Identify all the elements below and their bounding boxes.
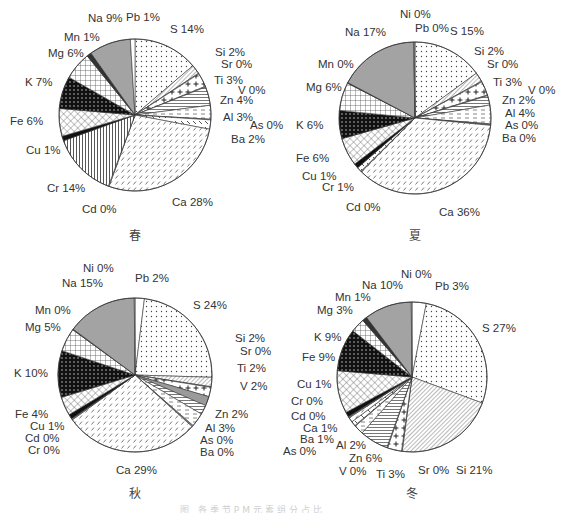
slice-label: Ba 0% xyxy=(200,446,234,458)
slice-label: Cd 0% xyxy=(82,203,117,215)
slice-label: Fe 6% xyxy=(296,152,329,164)
slice-label: Fe 4% xyxy=(15,408,48,420)
season-title: 冬 xyxy=(406,486,418,501)
slice-label: Pb 2% xyxy=(135,272,169,284)
season-title: 夏 xyxy=(409,229,421,243)
slice-label: S 14% xyxy=(170,23,204,35)
slice-label: Mg 3% xyxy=(317,304,353,316)
slice-label: Ti 3% xyxy=(493,76,522,88)
slice-label: S 15% xyxy=(450,25,484,37)
slice-label: Na 17% xyxy=(345,26,386,38)
slice-label: Ba 0% xyxy=(502,132,536,144)
slice-label: Mn 0% xyxy=(35,304,71,316)
slice-label: Mg 6% xyxy=(306,81,342,93)
pie-chart-autumn: Ni 0%Pb 2%Na 15%S 24%Mn 0%Mg 5%Si 2%Sr 0… xyxy=(14,262,271,501)
slice-label: Cu 1% xyxy=(26,144,61,156)
slice-label: Ti 2% xyxy=(237,362,266,374)
slice-label: S 27% xyxy=(482,322,516,334)
slice-label: Mg 5% xyxy=(25,321,61,333)
season-title: 春 xyxy=(129,229,141,243)
slice-label: Na 15% xyxy=(62,277,103,289)
slice-label: Cr 1% xyxy=(322,181,354,193)
slice-label: V 2% xyxy=(240,380,268,392)
slice-label: Ba 2% xyxy=(231,133,265,145)
slice-label: As 0% xyxy=(250,119,283,131)
slice-label: Ca 29% xyxy=(116,464,157,476)
season-title: 秋 xyxy=(129,487,141,501)
slice-label: Mn 0% xyxy=(318,58,354,70)
slice-label: Al 3% xyxy=(205,422,235,434)
slice-label: Cd 0% xyxy=(291,410,326,422)
slice-label: As 0% xyxy=(283,445,316,457)
pie-chart-figure: Pb 1%S 14%Si 2%Sr 0%Ti 3%V 0%Zn 4%Al 3%A… xyxy=(0,0,564,513)
slice-label: Zn 2% xyxy=(502,94,535,106)
slice-label: Zn 4% xyxy=(220,94,253,106)
slice-label: Ba 1% xyxy=(300,433,334,445)
slice-label: Pb 3% xyxy=(435,280,469,292)
slice-label: Cd 0% xyxy=(346,201,381,213)
slice-label: Cu 1% xyxy=(297,378,332,390)
slice-label: Al 4% xyxy=(505,107,535,119)
slice-label: Cr 0% xyxy=(291,395,323,407)
slice-label: Fe 6% xyxy=(10,115,43,127)
slice-label: Cu 1% xyxy=(30,420,65,432)
slice-label: Cu 1% xyxy=(302,170,337,182)
slice-label: Si 2% xyxy=(235,332,265,344)
slice-label: K 6% xyxy=(296,119,324,131)
slice-label: Pb 0% xyxy=(415,22,449,34)
slice-label: Si 21% xyxy=(456,464,492,476)
slice-label: Ni 0% xyxy=(400,8,431,20)
slice-label: K 10% xyxy=(14,367,48,379)
slice-label: Pb 1% xyxy=(126,11,160,23)
slice-label: Cr 14% xyxy=(47,182,85,194)
slice-label: Cd 0% xyxy=(25,432,60,444)
slice-label: Ni 0% xyxy=(401,268,432,280)
slice-label: Si 2% xyxy=(215,46,245,58)
slice-label: Sr 0% xyxy=(487,58,518,70)
slice-label: Ca 28% xyxy=(172,196,213,208)
figure-caption: 图 各季节PM元素组分占比 xyxy=(180,503,410,513)
slice-label: K 7% xyxy=(25,76,53,88)
pie-chart-summer: Ni 0%Pb 0%S 15%Si 2%Sr 0%Ti 3%V 0%Zn 2%A… xyxy=(296,8,556,243)
slice-label: K 9% xyxy=(314,331,342,343)
slice-label: Sr 0% xyxy=(221,58,252,70)
slice-label: Cr 0% xyxy=(28,444,60,456)
pie-chart-spring: Pb 1%S 14%Si 2%Sr 0%Ti 3%V 0%Zn 4%Al 3%A… xyxy=(10,11,283,243)
pie-chart-winter: Ni 0%Na 10%Pb 3%Mn 1%Mg 3%S 27%K 9%Fe 9%… xyxy=(283,268,516,501)
slice-label: Al 3% xyxy=(223,111,253,123)
slice-label: As 0% xyxy=(505,119,538,131)
slice-label: Sr 0% xyxy=(240,345,271,357)
slice-label: Al 2% xyxy=(336,439,366,451)
slice-label: V 0% xyxy=(339,465,367,477)
slice-label: Mn 1% xyxy=(64,31,100,43)
slice-label: As 0% xyxy=(200,434,233,446)
slice-label: Sr 0% xyxy=(418,464,449,476)
slice-label: Mn 1% xyxy=(335,291,371,303)
slice-label: Na 10% xyxy=(362,279,403,291)
slice-label: Ca 36% xyxy=(439,206,480,218)
slice-label: Si 2% xyxy=(474,45,504,57)
slice-label: Ni 0% xyxy=(83,262,114,274)
slice-label: Na 9% xyxy=(88,12,123,24)
slice-label: Zn 2% xyxy=(215,408,248,420)
slice-label: S 24% xyxy=(193,299,227,311)
slice-label: Ti 3% xyxy=(376,468,405,480)
slice-label: Mg 6% xyxy=(48,47,84,59)
slice-label: Zn 6% xyxy=(349,452,382,464)
slice-label: Fe 9% xyxy=(302,351,335,363)
